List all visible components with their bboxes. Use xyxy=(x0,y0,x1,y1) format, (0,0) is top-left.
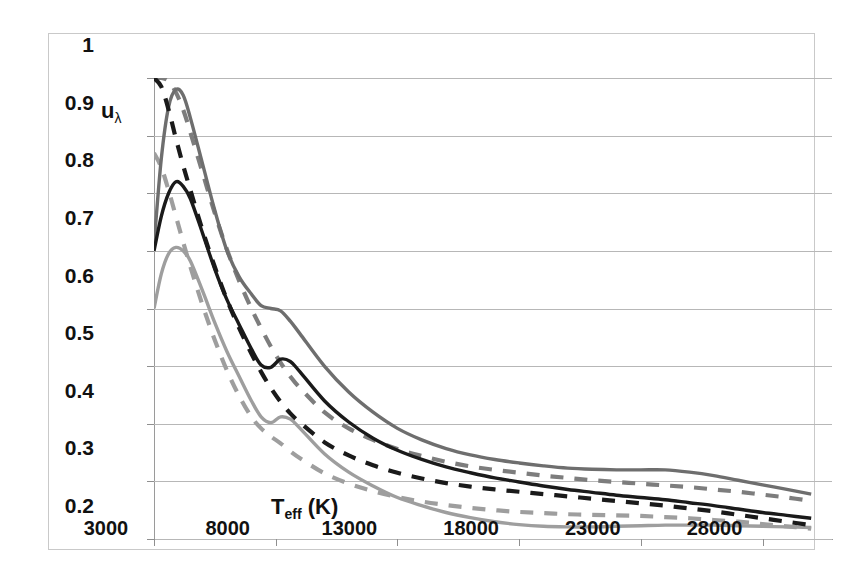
y-tick-mark xyxy=(147,78,154,79)
series-lower-dashed-lightgray xyxy=(154,153,811,529)
y-tick-mark xyxy=(147,193,154,194)
gridline xyxy=(154,539,832,540)
series-upper-dashed-gray xyxy=(154,78,811,501)
y-tick-mark xyxy=(147,136,154,137)
x-tick-label: 3000 xyxy=(61,518,151,538)
x-tick-mark xyxy=(154,539,155,546)
x-tick-mark xyxy=(763,539,764,546)
y-tick-label: 0.9 xyxy=(42,92,94,113)
x-tick-mark xyxy=(397,539,398,546)
y-tick-label: 0.6 xyxy=(42,265,94,286)
y-tick-mark xyxy=(147,309,154,310)
x-tick-mark xyxy=(641,539,642,546)
series-upper-solid-gray xyxy=(154,89,811,494)
y-tick-label: 0.8 xyxy=(42,149,94,170)
chart-frame: uλ Teff (K) 10.90.80.70.60.50.40.30.2 30… xyxy=(48,33,815,550)
y-tick-mark xyxy=(147,481,154,482)
curve-layer xyxy=(154,78,832,539)
chart-figure: uλ Teff (K) 10.90.80.70.60.50.40.30.2 30… xyxy=(0,0,858,583)
y-tick-label: 0.7 xyxy=(42,207,94,228)
x-tick-mark xyxy=(276,539,277,546)
y-axis-label: uλ xyxy=(101,100,121,129)
y-axis-label-subscript: λ xyxy=(114,110,121,126)
y-axis-label-text: u xyxy=(101,98,114,123)
x-tick-label: 18000 xyxy=(426,518,516,538)
y-tick-label: 0.2 xyxy=(42,495,94,516)
y-tick-label: 0.3 xyxy=(42,437,94,458)
x-tick-mark xyxy=(519,539,520,546)
plot-area xyxy=(154,78,832,539)
y-tick-label: 0.4 xyxy=(42,380,94,401)
y-tick-label: 0.5 xyxy=(42,322,94,343)
x-tick-label: 13000 xyxy=(304,518,394,538)
x-tick-label: 28000 xyxy=(670,518,760,538)
series-lower-solid-lightgray xyxy=(154,247,811,527)
x-tick-label: 23000 xyxy=(548,518,638,538)
y-tick-label: 1 xyxy=(42,34,94,55)
y-tick-mark xyxy=(147,251,154,252)
y-tick-mark xyxy=(147,539,154,540)
y-tick-mark xyxy=(147,424,154,425)
y-tick-mark xyxy=(147,366,154,367)
x-tick-label: 8000 xyxy=(183,518,273,538)
